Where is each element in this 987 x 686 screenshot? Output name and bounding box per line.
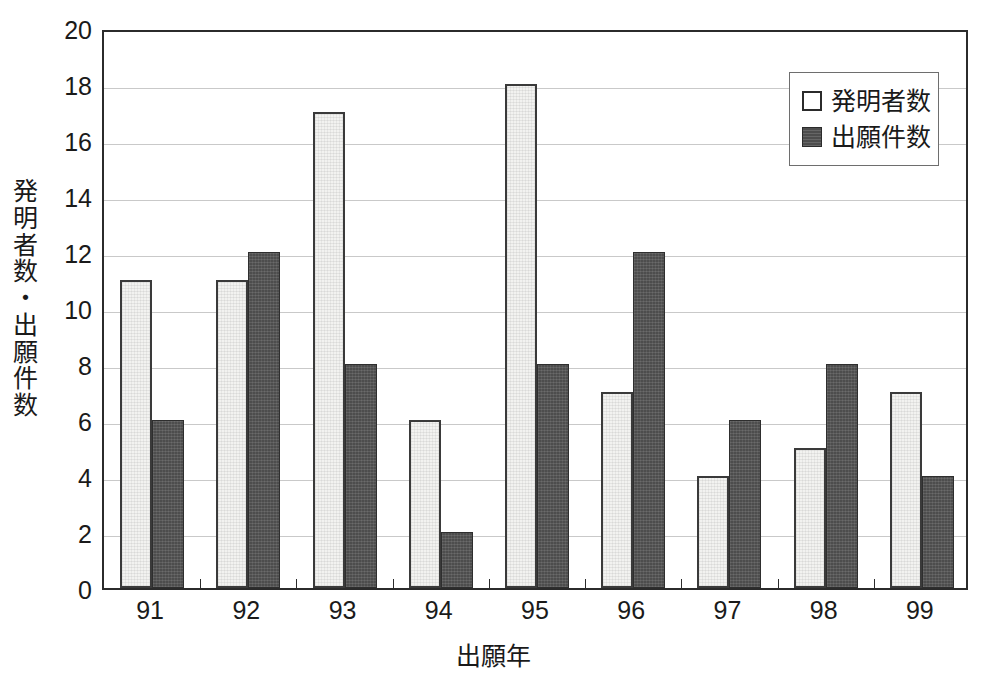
y-axis-title-char: 数 [8, 392, 42, 419]
x-axis-tick-mark [585, 579, 586, 588]
legend: 発明者数 出願件数 [789, 72, 939, 166]
x-axis-tick-mark [393, 579, 394, 588]
bar-group [200, 32, 296, 588]
y-axis-title-char: 者 [8, 232, 42, 259]
bar-group [681, 32, 777, 588]
x-axis-tick-label: 99 [872, 598, 968, 623]
plot-area: 発明者数 出願件数 [102, 30, 968, 590]
bar-chart: 02468101214161820 発明者数・出願件数 発明者数 出願件数 91… [0, 0, 987, 686]
bar-group [393, 32, 489, 588]
bar[interactable] [345, 364, 377, 588]
x-axis-tick-label: 91 [102, 598, 198, 623]
x-axis-tick-label: 95 [487, 598, 583, 623]
y-axis-title: 発明者数・出願件数 [8, 178, 42, 419]
x-axis-tick-label: 98 [776, 598, 872, 623]
bar[interactable] [152, 420, 184, 588]
bar[interactable] [794, 448, 826, 588]
bar[interactable] [697, 476, 729, 588]
y-axis-title-char: 数 [8, 258, 42, 285]
x-axis-tick-label: 97 [679, 598, 775, 623]
bar[interactable] [248, 252, 280, 588]
x-axis-tick-mark [874, 579, 875, 588]
bar-group [296, 32, 392, 588]
legend-item[interactable]: 出願件数 [802, 119, 926, 155]
x-axis-tick-label: 94 [391, 598, 487, 623]
bar[interactable] [890, 392, 922, 588]
x-axis-tick-mark [296, 579, 297, 588]
y-axis-title-char: 願 [8, 339, 42, 366]
y-axis-tick-label: 2 [6, 522, 92, 547]
bar[interactable] [922, 476, 954, 588]
bar-group [104, 32, 200, 588]
x-axis-tick-mark [200, 579, 201, 588]
bar[interactable] [441, 532, 473, 588]
x-axis-title: 出願年 [0, 644, 987, 669]
y-axis-title-char: 件 [8, 365, 42, 392]
y-axis-title-char: 発 [8, 178, 42, 205]
bar[interactable] [601, 392, 633, 588]
y-axis-tick-label: 0 [6, 578, 92, 603]
bar[interactable] [120, 280, 152, 588]
legend-item-label: 発明者数 [831, 89, 931, 114]
bar[interactable] [729, 420, 761, 588]
x-axis-tick-label: 92 [198, 598, 294, 623]
legend-swatch-dark-square-icon [802, 127, 822, 147]
y-axis-tick-label: 4 [6, 466, 92, 491]
legend-item[interactable]: 発明者数 [802, 83, 926, 119]
y-axis-title-char: ・ [8, 285, 42, 312]
y-axis-title-char: 出 [8, 312, 42, 339]
bar[interactable] [505, 84, 537, 588]
x-axis-tick-labels: 919293949596979899 [102, 598, 968, 634]
bar[interactable] [409, 420, 441, 588]
bar[interactable] [537, 364, 569, 588]
y-axis-tick-label: 20 [6, 18, 92, 43]
bar[interactable] [826, 364, 858, 588]
x-axis-tick-label: 93 [294, 598, 390, 623]
x-axis-tick-mark [681, 579, 682, 588]
bar-group [489, 32, 585, 588]
y-axis-title-char: 明 [8, 205, 42, 232]
bar[interactable] [313, 112, 345, 588]
legend-swatch-light-square-icon [802, 91, 822, 111]
x-axis-tick-label: 96 [583, 598, 679, 623]
bar-group [585, 32, 681, 588]
bar[interactable] [216, 280, 248, 588]
x-axis-tick-mark [778, 579, 779, 588]
x-axis-tick-mark [489, 579, 490, 588]
y-axis-tick-label: 16 [6, 130, 92, 155]
bar[interactable] [633, 252, 665, 588]
legend-item-label: 出願件数 [831, 125, 931, 150]
y-axis-tick-label: 18 [6, 74, 92, 99]
